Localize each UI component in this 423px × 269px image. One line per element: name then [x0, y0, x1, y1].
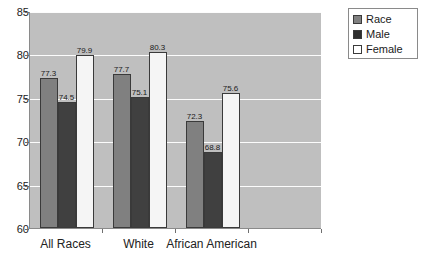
bar-value-label: 74.5	[59, 93, 75, 102]
bar-female-white	[149, 52, 167, 228]
bar-male-african-american	[204, 152, 222, 228]
legend-label-race: Race	[366, 14, 392, 25]
x-tick-mark	[248, 229, 249, 233]
bar-race-white	[113, 74, 131, 228]
gridline	[30, 12, 321, 13]
x-tick-label: African American	[166, 237, 257, 251]
x-tick-mark	[175, 229, 176, 233]
bar-chart-figure: 606570758085 77.374.579.977.775.180.372.…	[0, 0, 423, 269]
bar-value-label: 68.8	[205, 143, 221, 152]
legend-item-race[interactable]: Race	[353, 12, 417, 27]
legend-swatch-female-icon	[353, 45, 362, 54]
bar-value-label: 75.1	[132, 88, 148, 97]
bar-race-all-races	[40, 78, 58, 228]
x-tick-mark	[321, 229, 322, 233]
bar-value-label: 75.6	[223, 84, 239, 93]
bar-value-label: 80.3	[150, 43, 166, 52]
legend-swatch-race-icon	[353, 15, 362, 24]
legend-item-female[interactable]: Female	[353, 42, 417, 57]
y-axis: 606570758085	[0, 0, 29, 269]
legend-label-female: Female	[366, 44, 403, 55]
bar-race-african-american	[186, 121, 204, 228]
bar-female-all-races	[76, 55, 94, 228]
chart-legend: Race Male Female	[348, 8, 418, 59]
bar-value-label: 77.7	[114, 65, 130, 74]
bar-male-all-races	[58, 102, 76, 228]
bar-female-african-american	[222, 93, 240, 228]
legend-label-male: Male	[366, 29, 390, 40]
gridline	[30, 55, 321, 56]
bar-male-white	[131, 97, 149, 228]
plot-area: 77.374.579.977.775.180.372.368.875.6	[29, 12, 321, 229]
x-tick-label: White	[123, 237, 154, 251]
legend-swatch-male-icon	[353, 30, 362, 39]
bar-value-label: 72.3	[187, 112, 203, 121]
bar-value-label: 77.3	[41, 69, 57, 78]
x-tick-mark	[102, 229, 103, 233]
bar-value-label: 79.9	[77, 46, 93, 55]
x-tick-label: All Races	[40, 237, 91, 251]
x-axis: All RacesWhiteAfrican American	[29, 229, 321, 261]
legend-item-male[interactable]: Male	[353, 27, 417, 42]
